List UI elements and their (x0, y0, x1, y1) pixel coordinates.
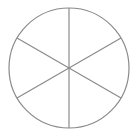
sector-circle-diagram (0, 0, 137, 139)
